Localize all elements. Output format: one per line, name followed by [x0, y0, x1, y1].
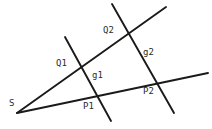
label-point-p1: P1	[83, 102, 94, 111]
transversal-line-g2	[112, 4, 174, 113]
label-line-g1: g1	[92, 71, 103, 80]
geometry-canvas	[0, 0, 212, 129]
label-point-p2: P2	[143, 87, 154, 96]
label-point-s: S	[9, 99, 14, 108]
label-point-q1: Q1	[56, 59, 67, 68]
geometry-figure: S Q1 Q2 g1 g2 P1 P2	[0, 0, 212, 129]
label-line-g2: g2	[143, 48, 154, 57]
label-point-q2: Q2	[103, 26, 114, 35]
